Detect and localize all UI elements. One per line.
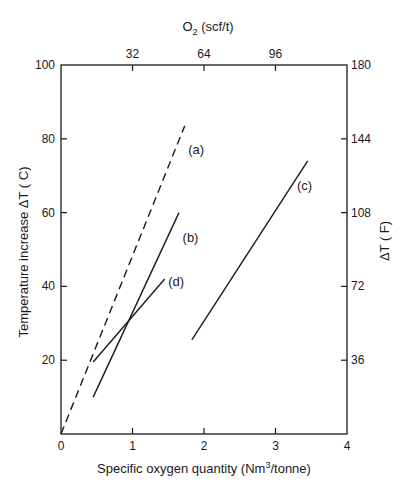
x-axis-title: Specific oxygen quantity (Nm3/tonne)	[97, 460, 311, 476]
series-label-c: (c)	[297, 178, 312, 193]
y-tick-label: 40	[42, 279, 56, 293]
series-line-a	[61, 126, 185, 434]
series-label-b: (b)	[183, 230, 199, 245]
x-tick-label: 1	[129, 439, 136, 453]
right-y-axis-title: ΔT ( F)	[377, 221, 392, 261]
plot-frame	[61, 65, 347, 434]
series-line-b	[93, 213, 179, 398]
tick-labels: 01234204060801003264963672108144180	[35, 47, 371, 453]
y-tick-label: 60	[42, 206, 56, 220]
right-tick-label: 108	[351, 206, 371, 220]
right-tick-label: 144	[351, 132, 371, 146]
x-tick-label: 3	[272, 439, 279, 453]
series-label-d: (d)	[168, 274, 184, 289]
right-tick-label: 72	[351, 279, 365, 293]
top-tick-label: 64	[197, 47, 211, 61]
x-tick-label: 4	[344, 439, 351, 453]
series-line-c	[192, 161, 308, 340]
series-labels: (a)(b)(c)(d)	[168, 142, 312, 290]
top-tick-label: 32	[126, 47, 140, 61]
right-tick-label: 36	[351, 353, 365, 367]
x-tick-label: 2	[201, 439, 208, 453]
top-axis-title: O2 (scf/t)	[182, 19, 233, 37]
chart: 01234204060801003264963672108144180 (a)(…	[0, 0, 411, 499]
top-tick-label: 96	[269, 47, 283, 61]
series-line-d	[93, 279, 165, 362]
y-tick-label: 100	[35, 58, 55, 72]
ticks	[61, 65, 347, 434]
series-group	[61, 126, 308, 434]
y-tick-label: 80	[42, 132, 56, 146]
right-tick-label: 180	[351, 58, 371, 72]
x-tick-label: 0	[58, 439, 65, 453]
y-axis-title: Temperature increase ΔT ( C)	[16, 167, 31, 338]
series-label-a: (a)	[188, 142, 204, 157]
y-tick-label: 20	[42, 353, 56, 367]
